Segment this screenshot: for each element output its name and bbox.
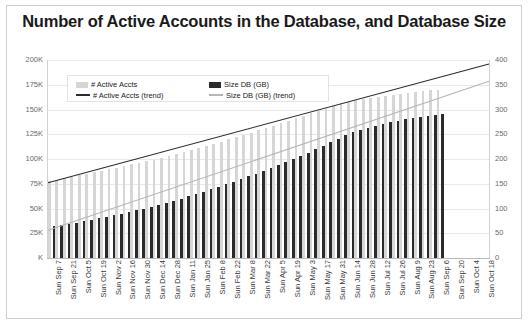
x-tick-label: Sun Aug 23 xyxy=(428,260,436,299)
legend-item: Size DB (GB) xyxy=(209,80,269,89)
y-tick-right: 300 xyxy=(495,106,508,114)
y-tick-right: 100 xyxy=(495,205,508,213)
x-tick-label: Sun May 31 xyxy=(339,260,347,300)
trend-line-db-size xyxy=(48,81,489,230)
x-axis-labels: Sun Sep 7Sun Sep 21Sun Oct 5Sun Oct 19Su… xyxy=(48,260,489,322)
legend-item: Size DB (GB) (trend) xyxy=(209,91,295,100)
x-tick-label: Sun Jun 14 xyxy=(354,260,362,298)
y-tick-left: K xyxy=(38,254,43,262)
x-tick-label: Sun Jul 12 xyxy=(384,260,392,295)
x-tick-label: Sun Apr 19 xyxy=(294,260,302,297)
x-tick-label: Sun Oct 19 xyxy=(100,260,108,298)
legend-item: # Active Accts xyxy=(76,80,137,89)
x-tick-label: Sun May 17 xyxy=(324,260,332,300)
legend-label: Size DB (GB) (trend) xyxy=(226,91,295,100)
x-tick-label: Sun Dec 14 xyxy=(159,260,167,299)
legend-item: # Active Accts (trend) xyxy=(76,91,163,100)
legend-label: Size DB (GB) xyxy=(224,80,269,89)
axis-bottom-line xyxy=(47,258,490,259)
x-tick-label: Sun May 3 xyxy=(309,260,317,296)
x-tick-label: Sun Jan 25 xyxy=(204,260,212,298)
x-tick-label: Sun Nov 16 xyxy=(129,260,137,299)
legend-label: # Active Accts (trend) xyxy=(93,91,163,100)
y-tick-right: 200 xyxy=(495,155,508,163)
x-tick-label: Sun Dec 28 xyxy=(174,260,182,299)
x-tick-label: Sun Nov 30 xyxy=(144,260,152,299)
chart-frame: Number of Active Accounts in the Databas… xyxy=(6,5,522,319)
legend-swatch-line xyxy=(209,94,223,96)
y-tick-right: 350 xyxy=(495,81,508,89)
y-tick-left: 25K xyxy=(30,229,43,237)
x-tick-label: Sun Apr 5 xyxy=(279,260,287,293)
x-tick-label: Sun Sep 21 xyxy=(70,260,78,299)
x-tick-label: Sun Nov 2 xyxy=(115,260,123,295)
y-tick-right: 150 xyxy=(495,180,508,188)
x-tick-label: Sun Sep 6 xyxy=(443,260,451,295)
x-tick-label: Sun Feb 22 xyxy=(234,260,242,299)
y-tick-left: 175K xyxy=(25,81,43,89)
y-tick-right: 50 xyxy=(495,229,503,237)
chart-title: Number of Active Accounts in the Databas… xyxy=(7,12,521,31)
x-tick-label: Sun Oct 4 xyxy=(473,260,481,293)
y-tick-left: 200K xyxy=(25,56,43,64)
legend-swatch-box xyxy=(76,82,88,88)
y-tick-left: 150K xyxy=(25,106,43,114)
y-tick-left: 75K xyxy=(30,180,43,188)
x-tick-label: Sun Aug 9 xyxy=(414,260,422,295)
legend-label: # Active Accts xyxy=(91,80,137,89)
y-tick-left: 125K xyxy=(25,130,43,138)
y-tick-right: 400 xyxy=(495,56,508,64)
x-tick-label: Sun Mar 8 xyxy=(249,260,257,295)
x-tick-label: Sun Feb 8 xyxy=(219,260,227,295)
x-tick-label: Sun Jan 11 xyxy=(189,260,197,297)
legend-swatch-line xyxy=(76,94,90,96)
y-tick-left: 100K xyxy=(25,155,43,163)
axis-right-line xyxy=(489,60,490,258)
x-tick-label: Sun Sep 20 xyxy=(458,260,466,299)
x-tick-label: Sun Oct 5 xyxy=(85,260,93,293)
x-tick-label: Sun Oct 18 xyxy=(488,260,496,298)
x-tick-label: Sun Sep 7 xyxy=(55,260,63,295)
x-tick-label: Sun Mar 22 xyxy=(264,260,272,299)
y-tick-left: 50K xyxy=(30,205,43,213)
legend-swatch-box xyxy=(209,82,221,88)
x-tick-label: Sun Jul 26 xyxy=(399,260,407,295)
chart-legend: # Active AcctsSize DB (GB)# Active Accts… xyxy=(67,75,329,102)
y-tick-right: 250 xyxy=(495,130,508,138)
x-tick-label: Sun Jun 28 xyxy=(369,260,377,298)
